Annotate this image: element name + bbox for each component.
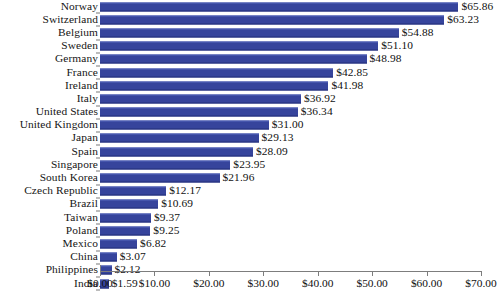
category-label: Switzerland	[42, 14, 98, 25]
bar-row: Japan$29.13	[0, 132, 504, 145]
bar-chart: Norway$65.86Switzerland$63.23Belgium$54.…	[0, 0, 504, 298]
category-label: Brazil	[70, 199, 98, 210]
bar-row: Italy$36.92	[0, 92, 504, 105]
category-label: Singapore	[51, 159, 98, 170]
category-label: United Kingdom	[20, 120, 98, 131]
x-axis-tick	[100, 271, 101, 276]
bar-value-label: $23.95	[233, 159, 265, 170]
bar-row: Brazil$10.69	[0, 198, 504, 211]
bar	[100, 121, 269, 130]
bar-row: Belgium$54.88	[0, 26, 504, 39]
bar-value-label: $12.17	[169, 186, 201, 197]
category-label: France	[66, 67, 98, 78]
bar-row: Norway$65.86	[0, 0, 504, 13]
bar-row: China$3.07	[0, 251, 504, 264]
x-axis-tick	[209, 271, 210, 276]
category-label: China	[70, 251, 98, 262]
x-axis-tick-label: $40.00	[302, 278, 333, 289]
bar	[100, 2, 458, 11]
bar	[100, 15, 444, 24]
plot-area: Norway$65.86Switzerland$63.23Belgium$54.…	[0, 0, 504, 271]
bar	[100, 253, 117, 262]
bar	[100, 81, 328, 90]
x-axis-tick	[481, 271, 482, 276]
bar-row: France$42.85	[0, 66, 504, 79]
x-axis-tick	[263, 271, 264, 276]
bar	[100, 94, 301, 103]
bar-value-label: $36.34	[301, 106, 333, 117]
bar	[100, 187, 166, 196]
bar	[100, 174, 220, 183]
bar-value-label: $6.82	[140, 238, 166, 249]
bar-value-label: $10.69	[161, 199, 193, 210]
bar-row: Mexico$6.82	[0, 237, 504, 250]
x-axis-tick-label: $30.00	[248, 278, 279, 289]
category-label: Belgium	[58, 27, 98, 38]
bar-value-label: $21.96	[223, 172, 255, 183]
bar-row: Sweden$51.10	[0, 40, 504, 53]
category-label: Norway	[61, 1, 98, 12]
bar	[100, 147, 253, 156]
bar	[100, 200, 158, 209]
bar-row: Switzerland$63.23	[0, 13, 504, 26]
x-axis-tick-label: $10.00	[139, 278, 170, 289]
category-label: Ireland	[65, 80, 98, 91]
category-label: Spain	[72, 146, 98, 157]
bar-row: South Korea$21.96	[0, 171, 504, 184]
y-axis-tick	[96, 290, 100, 291]
bar-row: United States$36.34	[0, 106, 504, 119]
bar	[100, 134, 259, 143]
bar-row: Poland$9.25	[0, 224, 504, 237]
bar-row: Ireland$41.98	[0, 79, 504, 92]
bar-row: Singapore$23.95	[0, 158, 504, 171]
category-label: Philippines	[46, 265, 98, 276]
category-label: South Korea	[40, 172, 98, 183]
bar-value-label: $41.98	[331, 80, 363, 91]
bar	[100, 160, 230, 169]
category-label: Czech Republic	[24, 186, 98, 197]
bar	[100, 28, 399, 37]
bar	[100, 55, 367, 64]
category-label: Mexico	[63, 238, 98, 249]
bar	[100, 226, 150, 235]
bar-row: Spain$28.09	[0, 145, 504, 158]
x-axis-tick	[372, 271, 373, 276]
bar-value-label: $63.23	[447, 14, 479, 25]
bar-value-label: $48.98	[370, 54, 402, 65]
x-axis-tick	[318, 271, 319, 276]
bar	[100, 68, 333, 77]
bar-value-label: $1.59	[112, 278, 138, 289]
bar-value-label: $42.85	[336, 67, 368, 78]
bar	[100, 42, 378, 51]
bar-row: Taiwan$9.37	[0, 211, 504, 224]
bar	[100, 213, 151, 222]
category-label: Poland	[66, 225, 98, 236]
x-axis-tick-label: $0.00	[87, 278, 113, 289]
bar-value-label: $65.86	[461, 1, 493, 12]
category-label: Taiwan	[64, 212, 98, 223]
x-axis-tick	[154, 271, 155, 276]
bar-value-label: $9.37	[154, 212, 180, 223]
x-axis-tick-label: $50.00	[356, 278, 387, 289]
bar-row: United Kingdom$31.00	[0, 119, 504, 132]
bar-value-label: $3.07	[120, 251, 146, 262]
x-axis-tick-label: $60.00	[411, 278, 442, 289]
bar-value-label: $51.10	[381, 40, 413, 51]
bar-value-label: $31.00	[272, 120, 304, 131]
x-axis-tick-label: $20.00	[193, 278, 224, 289]
bar-row: Czech Republic$12.17	[0, 185, 504, 198]
bar-row: Germany$48.98	[0, 53, 504, 66]
bar-value-label: $36.92	[304, 93, 336, 104]
bar	[100, 239, 137, 248]
bar-value-label: $54.88	[402, 27, 434, 38]
x-axis-line	[100, 271, 482, 272]
bar	[100, 108, 298, 117]
category-label: United States	[36, 106, 98, 117]
bar-value-label: $29.13	[262, 133, 294, 144]
category-label: Germany	[55, 54, 98, 65]
x-axis-tick	[427, 271, 428, 276]
category-label: Sweden	[61, 40, 98, 51]
category-label: Japan	[72, 133, 98, 144]
bar-value-label: $9.25	[153, 225, 179, 236]
x-axis-tick-label: $70.00	[465, 278, 496, 289]
